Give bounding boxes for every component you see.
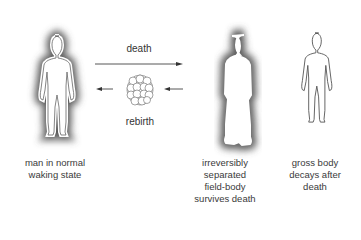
caption-line: separated [180,169,270,181]
embryo-cell-cluster-icon [127,75,153,105]
field-body-caption: irreversibly separated field-body surviv… [180,157,270,205]
caption-line: gross body [275,157,355,169]
gross-body-figure [302,33,332,122]
caption-line: waking state [5,169,105,181]
gross-body-caption: gross body decays after death [275,157,355,193]
caption-line: survives death [180,193,270,205]
rebirth-label: rebirth [115,116,165,127]
death-label: death [118,43,160,54]
rebirth-arrow-left [96,87,113,91]
normal-man-caption: man in normal waking state [5,157,105,181]
caption-line: decays after [275,169,355,181]
caption-line: field-body [180,181,270,193]
caption-line: death [275,181,355,193]
death-arrow [95,62,183,66]
caption-line: man in normal [5,157,105,169]
caption-line: irreversibly [180,157,270,169]
normal-man-figure [40,36,74,135]
rebirth-arrow-right [164,87,183,91]
field-body-figure [225,35,251,145]
